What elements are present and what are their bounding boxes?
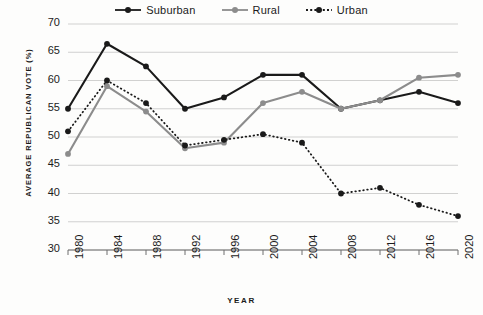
data-point — [338, 106, 344, 112]
y-tick-label: 70 — [30, 16, 60, 28]
x-tick-label: 2000 — [268, 235, 280, 259]
x-tick-label: 1988 — [151, 235, 163, 259]
data-point — [299, 89, 305, 95]
data-point — [65, 128, 71, 134]
data-point — [455, 100, 461, 106]
legend-swatch-rural-icon — [222, 5, 248, 15]
x-tick-label: 1984 — [112, 235, 124, 259]
data-point — [143, 63, 149, 69]
data-point — [104, 41, 110, 47]
y-tick-label: 30 — [30, 242, 60, 254]
data-point — [338, 191, 344, 197]
x-tick-label: 2008 — [346, 235, 358, 259]
data-point — [182, 143, 188, 149]
legend-item-rural: Rural — [222, 4, 280, 16]
data-point — [299, 72, 305, 78]
chart-figure: Suburban Rural Urban AVERAGE REPUBLICAN … — [0, 0, 483, 315]
x-tick-label: 2016 — [424, 235, 436, 259]
data-point — [377, 185, 383, 191]
x-tick-label: 2012 — [385, 235, 397, 259]
y-tick-label: 55 — [30, 101, 60, 113]
data-point — [416, 202, 422, 208]
y-tick-label: 50 — [30, 129, 60, 141]
legend-label-suburban: Suburban — [146, 4, 195, 16]
data-point — [260, 131, 266, 137]
x-tick-label: 2004 — [307, 235, 319, 259]
x-tick-label: 1980 — [73, 235, 85, 259]
data-point — [377, 97, 383, 103]
data-point — [182, 106, 188, 112]
y-tick-label: 40 — [30, 186, 60, 198]
data-point — [455, 213, 461, 219]
x-axis-title: YEAR — [0, 296, 483, 305]
chart-canvas — [0, 0, 483, 315]
data-point — [65, 106, 71, 112]
data-point — [416, 89, 422, 95]
data-point — [143, 109, 149, 115]
legend-item-urban: Urban — [306, 4, 368, 16]
y-axis-title: AVERAGE REPUBLICAN VOTE (%) — [24, 43, 33, 203]
data-point — [143, 100, 149, 106]
y-tick-label: 60 — [30, 73, 60, 85]
data-point — [221, 95, 227, 101]
data-point — [299, 140, 305, 146]
axis-lines — [68, 250, 458, 255]
x-tick-label: 2020 — [463, 235, 475, 259]
legend-item-suburban: Suburban — [115, 4, 195, 16]
y-tick-label: 65 — [30, 44, 60, 56]
data-point — [416, 75, 422, 81]
data-point — [104, 78, 110, 84]
legend-swatch-suburban-icon — [115, 5, 141, 15]
data-point — [221, 137, 227, 143]
series-rural — [65, 72, 461, 157]
legend-label-rural: Rural — [253, 4, 280, 16]
data-point — [455, 72, 461, 78]
data-point — [65, 151, 71, 157]
legend-label-urban: Urban — [337, 4, 368, 16]
data-point — [260, 72, 266, 78]
legend-swatch-urban-icon — [306, 5, 332, 15]
y-tick-label: 45 — [30, 157, 60, 169]
y-tick-label: 35 — [30, 214, 60, 226]
chart-legend: Suburban Rural Urban — [0, 0, 483, 20]
series-line-rural — [68, 75, 458, 154]
data-point — [260, 100, 266, 106]
x-tick-label: 1996 — [229, 235, 241, 259]
x-tick-label: 1992 — [190, 235, 202, 259]
series-urban — [65, 78, 461, 219]
